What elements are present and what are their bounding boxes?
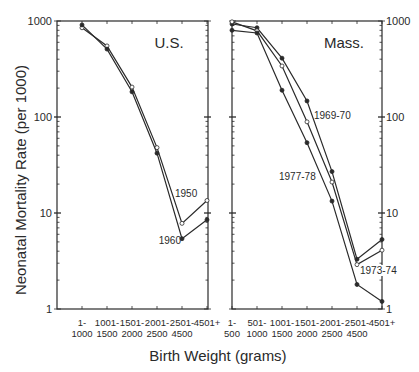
x-tick-label: 1500 xyxy=(271,328,292,339)
data-point xyxy=(280,56,284,60)
x-tick-label: 1- xyxy=(228,317,236,328)
x-tick-label: 500 xyxy=(224,328,240,339)
data-point xyxy=(330,170,334,174)
data-point xyxy=(305,120,309,124)
x-tick-label: 1001- xyxy=(270,317,294,328)
y-tick-label: 1000 xyxy=(386,15,410,27)
data-point xyxy=(355,282,359,286)
x-tick-label: 1000 xyxy=(246,328,267,339)
data-point xyxy=(305,141,309,145)
data-point xyxy=(330,180,334,184)
data-point xyxy=(380,237,384,241)
x-tick-label: 4501+ xyxy=(194,317,221,328)
x-tick-label: 4500 xyxy=(346,328,367,339)
data-point xyxy=(380,299,384,303)
x-tick-label: 501- xyxy=(247,317,266,328)
y-tick-label: 10 xyxy=(386,207,398,219)
series-label: 1950 xyxy=(175,188,198,199)
data-point xyxy=(155,151,159,155)
x-tick-label: 1001- xyxy=(95,317,119,328)
x-tick-label: 2001- xyxy=(320,317,344,328)
data-point xyxy=(205,198,209,202)
y-tick-label: 100 xyxy=(34,111,52,123)
y-axis-title: Neonatal Mortality Rate (per 1000) xyxy=(12,65,29,295)
series-label: 1960 xyxy=(159,235,182,246)
x-tick-label: 1- xyxy=(78,317,86,328)
x-tick-label: 4500 xyxy=(171,328,192,339)
x-tick-label: 2500 xyxy=(146,328,167,339)
y-tick-label: 10 xyxy=(40,207,52,219)
x-tick-label: 2501- xyxy=(170,317,194,328)
data-point xyxy=(80,23,84,27)
x-tick-label: 2001- xyxy=(145,317,169,328)
x-tick-label: 2501- xyxy=(345,317,369,328)
data-point xyxy=(355,257,359,261)
mortality-chart-figure: Neonatal Mortality Rate (per 1000) 11010… xyxy=(0,0,419,372)
panel-us: 11010010001-10001001-15001501-20002001-2… xyxy=(28,15,221,339)
x-tick-label: 4501+ xyxy=(369,317,396,328)
data-point xyxy=(180,221,184,225)
panel-mass: 11010010001-500501-10001001-15001501-200… xyxy=(224,15,410,339)
panel-title: Mass. xyxy=(324,34,364,51)
series-line-1960 xyxy=(82,25,207,239)
x-tick-label: 2500 xyxy=(321,328,342,339)
data-point xyxy=(230,20,234,24)
series-label: 1973-74 xyxy=(360,265,397,276)
data-point xyxy=(355,263,359,267)
data-point xyxy=(280,88,284,92)
data-point xyxy=(280,64,284,68)
data-point xyxy=(230,28,234,32)
series-line-1977-78 xyxy=(232,30,382,301)
data-point xyxy=(130,90,134,94)
x-tick-label: 2000 xyxy=(296,328,317,339)
data-point xyxy=(130,85,134,89)
x-tick-label: 1500 xyxy=(96,328,117,339)
y-tick-label: 100 xyxy=(386,111,404,123)
y-tick-label: 1 xyxy=(386,303,392,315)
plot-frame xyxy=(57,21,208,309)
data-point xyxy=(305,99,309,103)
x-tick-label: 1501- xyxy=(120,317,144,328)
x-axis-title: Birth Weight (grams) xyxy=(149,347,286,364)
x-tick-label: 1501- xyxy=(295,317,319,328)
y-tick-label: 1 xyxy=(46,303,52,315)
y-tick-label: 1000 xyxy=(28,15,52,27)
x-tick-label: 2000 xyxy=(121,328,142,339)
data-point xyxy=(330,199,334,203)
data-point xyxy=(255,31,259,35)
panel-title: U.S. xyxy=(154,34,183,51)
series-label: 1969-70 xyxy=(314,110,351,121)
x-tick-label: 1000 xyxy=(71,328,92,339)
data-point xyxy=(105,47,109,51)
data-point xyxy=(155,146,159,150)
data-point xyxy=(205,218,209,222)
series-label: 1977-78 xyxy=(279,171,316,182)
data-point xyxy=(380,248,384,252)
